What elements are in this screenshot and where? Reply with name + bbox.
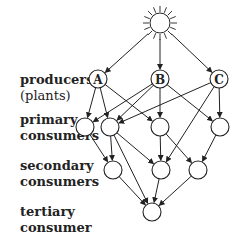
- node-S1: [104, 161, 122, 179]
- edge-P1-S1: [90, 135, 108, 162]
- food-web-graph: ABC: [0, 0, 239, 236]
- edge-P2-S1: [111, 136, 113, 160]
- edge-S2-T: [154, 179, 159, 202]
- edge-A-P1: [88, 88, 96, 118]
- edge-B-P1: [93, 84, 152, 122]
- node-P2: [101, 118, 119, 136]
- edge-P3-S3: [166, 134, 191, 163]
- node-P1: [76, 118, 94, 136]
- node-S2: [152, 161, 170, 179]
- node-P3: [151, 118, 169, 136]
- edge-A-P3: [105, 85, 152, 121]
- edge-P3-S2: [160, 136, 161, 160]
- edge-sun-C: [172, 34, 212, 72]
- edge-S3-T: [159, 176, 191, 205]
- node-T: [143, 203, 161, 221]
- node-S3: [189, 161, 207, 179]
- edge-C-P4: [219, 88, 220, 117]
- node-label-B: B: [155, 73, 165, 87]
- sun-icon: [143, 6, 177, 40]
- edge-sun-A: [105, 34, 148, 73]
- edge-C-P2: [119, 83, 211, 123]
- edge-B-P4: [167, 85, 212, 121]
- node-P4: [211, 118, 229, 136]
- node-label-C: C: [214, 73, 224, 87]
- node-label-A: A: [92, 73, 103, 87]
- food-web-diagram: producers (plants) primary consumers sec…: [0, 0, 239, 236]
- edge-P2-S2: [117, 133, 153, 164]
- edge-C-S2: [166, 87, 214, 162]
- edge-P4-S3: [203, 135, 216, 161]
